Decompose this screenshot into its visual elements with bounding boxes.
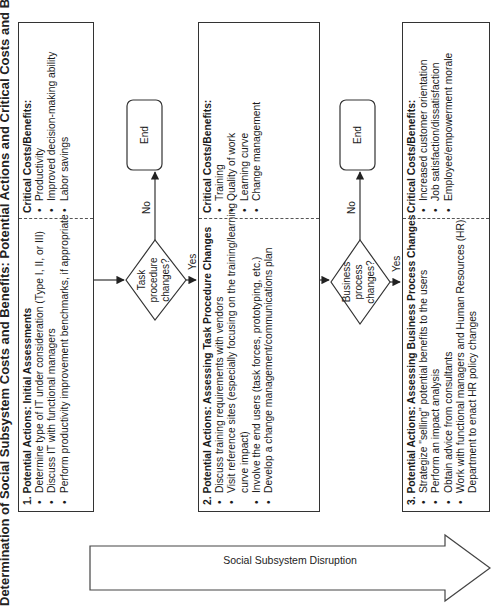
decision-2-no-label: No xyxy=(346,201,357,214)
social-subsystem-disruption-arrow: Social Subsystem Disruption xyxy=(90,535,490,601)
end-label-2: End xyxy=(352,126,363,144)
flow-connectors: Task procedure changes? Yes No End Busin… xyxy=(0,0,498,612)
decision-1-no-label: No xyxy=(141,201,152,214)
decision-2-line1: Business xyxy=(341,262,352,303)
end-box-2: End xyxy=(340,100,375,170)
decision-1-yes-label: Yes xyxy=(187,254,198,270)
decision-1-line2: procedure xyxy=(148,257,159,302)
arrow-label: Social Subsystem Disruption xyxy=(223,554,357,566)
end-label-1: End xyxy=(139,126,150,144)
decision-1-line1: Task xyxy=(136,269,147,291)
decision-2-line2: process xyxy=(353,264,364,299)
diagram-canvas: Determination of Social Subsystem Costs … xyxy=(0,0,498,612)
end-box-1: End xyxy=(127,100,162,170)
decision-1-line3: changes? xyxy=(160,258,171,302)
decision-2-line3: changes? xyxy=(365,260,376,304)
decision-business-process: Business process changes? xyxy=(331,240,390,324)
decision-2-yes-label: Yes xyxy=(391,256,402,272)
decision-task-procedure: Task procedure changes? xyxy=(126,240,186,320)
